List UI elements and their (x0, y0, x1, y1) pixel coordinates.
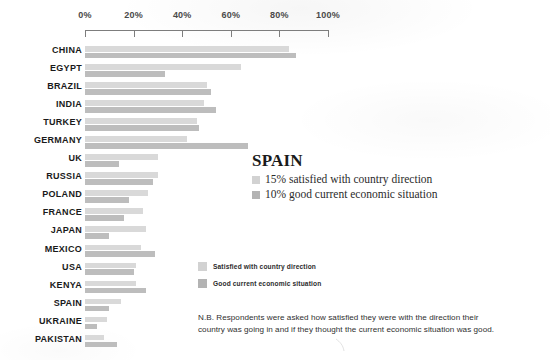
x-axis-line (0, 30, 350, 40)
country-label: INDIA (0, 99, 82, 109)
bar-good-economy (85, 107, 216, 113)
chart-row: EGYPT (0, 62, 350, 80)
bar-good-economy (85, 269, 134, 275)
bar-good-economy (85, 233, 109, 239)
bar-satisfied-direction (85, 172, 158, 178)
x-axis-tick-labels: 0%20%40%60%80%100% (0, 10, 350, 24)
callout-text: 10% good current economic situation (265, 187, 437, 202)
legend-label: Good current economic situation (213, 280, 321, 287)
bar-good-economy (85, 288, 146, 294)
bar-good-economy (85, 53, 296, 59)
axis-tick-mark (231, 30, 232, 37)
x-axis-tick-label: 20% (124, 10, 143, 20)
bar-satisfied-direction (85, 82, 207, 88)
x-axis-tick-label: 80% (270, 10, 289, 20)
callout-text: 15% satisfied with country direction (265, 172, 432, 187)
bar-good-economy (85, 251, 155, 257)
legend-item: Satisfied with country direction (198, 262, 321, 271)
footnote-line-1: N.B. Respondents were asked how satisfie… (198, 312, 543, 324)
bar-satisfied-direction (85, 64, 241, 70)
bar-satisfied-direction (85, 190, 148, 196)
country-label: KENYA (0, 280, 82, 290)
callout-lines: 15% satisfied with country direction10% … (252, 172, 542, 203)
bar-satisfied-direction (85, 208, 143, 214)
bar-good-economy (85, 89, 211, 95)
country-label: CHINA (0, 45, 82, 55)
bar-satisfied-direction (85, 281, 136, 287)
country-label: UKRAINE (0, 316, 82, 326)
x-axis-tick-label: 60% (221, 10, 240, 20)
chart-row: INDIA (0, 98, 350, 116)
chart-row: TURKEY (0, 116, 350, 134)
bar-good-economy (85, 215, 124, 221)
chart-row: GERMANY (0, 134, 350, 152)
country-label: MEXICO (0, 244, 82, 254)
bar-good-economy (85, 143, 248, 149)
chart-legend: Satisfied with country directionGood cur… (198, 262, 321, 296)
bar-satisfied-direction (85, 100, 204, 106)
bar-good-economy (85, 71, 165, 77)
country-label: GERMANY (0, 135, 82, 145)
country-label: BRAZIL (0, 81, 82, 91)
country-label: RUSSIA (0, 171, 82, 181)
bar-satisfied-direction (85, 299, 121, 305)
axis-tick-mark (279, 30, 280, 37)
bar-satisfied-direction (85, 118, 197, 124)
bar-satisfied-direction (85, 317, 107, 323)
country-label: JAPAN (0, 225, 82, 235)
axis-tick-mark (134, 30, 135, 37)
legend-swatch-dark (198, 279, 207, 288)
callout-title: SPAIN (252, 152, 542, 170)
chart-row: BRAZIL (0, 80, 350, 98)
legend-item: Good current economic situation (198, 279, 321, 288)
bar-satisfied-direction (85, 335, 104, 341)
footnote: N.B. Respondents were asked how satisfie… (198, 312, 543, 336)
bar-good-economy (85, 161, 119, 167)
country-label: PAKISTAN (0, 334, 82, 344)
legend-swatch-light (198, 262, 207, 271)
bar-good-economy (85, 179, 153, 185)
spain-callout: SPAIN 15% satisfied with country directi… (252, 152, 542, 203)
callout-swatch-dark (252, 191, 260, 199)
bar-good-economy (85, 324, 97, 330)
country-label: EGYPT (0, 63, 82, 73)
axis-baseline (85, 30, 328, 31)
country-label: TURKEY (0, 117, 82, 127)
country-label: SPAIN (0, 298, 82, 308)
bar-satisfied-direction (85, 226, 146, 232)
chart-row: FRANCE (0, 206, 350, 224)
footnote-line-2: country was going in and if they thought… (198, 324, 543, 336)
callout-line: 15% satisfied with country direction (252, 172, 542, 187)
bar-good-economy (85, 197, 129, 203)
country-label: USA (0, 262, 82, 272)
x-axis-tick-label: 40% (173, 10, 192, 20)
bar-satisfied-direction (85, 154, 158, 160)
bar-satisfied-direction (85, 245, 141, 251)
bar-satisfied-direction (85, 136, 187, 142)
legend-label: Satisfied with country direction (213, 263, 316, 270)
x-axis-tick-label: 100% (316, 10, 340, 20)
chart-row: MEXICO (0, 243, 350, 261)
bar-good-economy (85, 306, 109, 312)
country-label: FRANCE (0, 207, 82, 217)
x-axis-tick-label: 0% (78, 10, 91, 20)
callout-swatch-light (252, 176, 260, 184)
callout-line: 10% good current economic situation (252, 187, 542, 202)
axis-tick-mark (85, 30, 86, 37)
bar-satisfied-direction (85, 46, 289, 52)
bar-good-economy (85, 342, 117, 348)
axis-tick-mark (328, 30, 329, 37)
chart-row: CHINA (0, 44, 350, 62)
country-label: POLAND (0, 189, 82, 199)
country-label: UK (0, 153, 82, 163)
bar-good-economy (85, 125, 199, 131)
axis-tick-mark (182, 30, 183, 37)
bar-satisfied-direction (85, 263, 136, 269)
chart-row: JAPAN (0, 224, 350, 242)
